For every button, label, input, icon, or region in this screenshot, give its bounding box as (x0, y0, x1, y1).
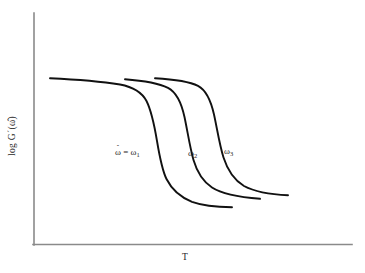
y-axis-label: log G´(ω̂) (7, 116, 17, 156)
curve-label-omega-1: ˆω = ω1 (115, 148, 140, 158)
figure-container: log G´(ω̂) T ˆω = ω1 ω2 ω3 (0, 0, 365, 273)
curve-omega-2 (125, 79, 260, 199)
curve-label-omega-3: ω3 (224, 147, 233, 157)
curve-label-omega-2: ω2 (188, 149, 197, 159)
omega-1-subscript: 1 (136, 151, 139, 158)
plot-canvas (0, 0, 365, 273)
x-axis-label: T (182, 252, 188, 262)
curve-omega-3 (155, 78, 288, 195)
y-axis-label-wrapper: log G´(ω̂) (4, 96, 20, 176)
omega-hat-glyph: ˆω (115, 148, 121, 157)
omega-3-subscript: 3 (230, 150, 233, 157)
omega-2-subscript: 2 (194, 152, 197, 159)
equals-omega-text: = ω (121, 147, 137, 157)
curve-omega-1 (50, 78, 232, 207)
hat-accent-icon: ˆ (117, 144, 119, 151)
